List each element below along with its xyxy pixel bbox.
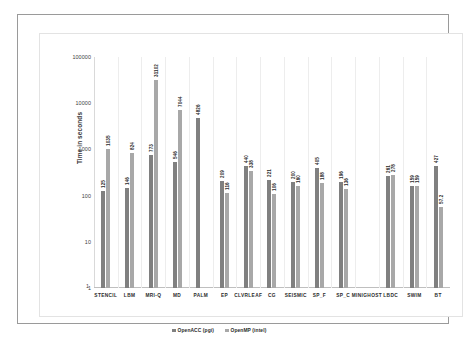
legend-swatch-icon <box>172 329 176 333</box>
bar[interactable] <box>296 186 300 288</box>
bar-slot: 146 <box>125 57 129 288</box>
bar[interactable] <box>154 80 158 288</box>
bar-value-label: 159 <box>415 175 420 183</box>
category-label: LBDC <box>383 293 398 298</box>
legend-label: OpenMP (intel) <box>231 328 267 333</box>
bar-pair <box>355 57 379 288</box>
bar[interactable] <box>225 193 229 288</box>
bar-group: 405188SP_F <box>308 57 332 288</box>
bar[interactable] <box>106 149 110 288</box>
bar[interactable] <box>125 188 129 288</box>
bar-pair: 5467044 <box>165 57 189 288</box>
category-label: STENCIL <box>94 293 117 298</box>
bar[interactable] <box>339 182 343 288</box>
bar-slot: 31102 <box>154 57 158 288</box>
category-label: MINIGHOST <box>352 293 382 298</box>
bar[interactable] <box>320 183 324 288</box>
category-label: EP <box>221 293 228 298</box>
bar-slot: 136 <box>344 57 348 288</box>
bar-slot: 773 <box>149 57 153 288</box>
bar-group: 261278LBDC <box>379 57 403 288</box>
bar[interactable] <box>415 186 419 288</box>
bar-slot: 405 <box>315 57 319 288</box>
bar-group: 209116EP <box>213 57 237 288</box>
bar-slot: 440 <box>244 57 248 288</box>
bar[interactable] <box>391 175 395 288</box>
bar[interactable] <box>173 162 177 288</box>
bar-pair: 159159 <box>403 57 427 288</box>
category-label: SP_F <box>313 293 326 298</box>
y-tick-label: 10000 <box>76 100 92 106</box>
category-label: MRI-Q <box>145 293 161 298</box>
bar-group: 200160SEISMIC <box>284 57 308 288</box>
bar-value-label: 116 <box>225 182 230 190</box>
bar-pair: 261278 <box>379 57 403 288</box>
bar-value-label: 188 <box>320 172 325 180</box>
plot-area: 110100100010000100000 1251035STENCIL1468… <box>94 57 450 288</box>
bar-slot: 116 <box>225 57 229 288</box>
bar-slot: 824 <box>130 57 134 288</box>
bar[interactable] <box>386 176 390 288</box>
bar-slot: 221 <box>267 57 271 288</box>
bar-slot <box>362 57 366 288</box>
bar[interactable] <box>434 166 438 288</box>
bar-value-label: 1035 <box>107 135 112 146</box>
bar[interactable] <box>149 155 153 288</box>
bar-slot: 106 <box>272 57 276 288</box>
legend-item[interactable]: OpenMP (intel) <box>225 328 266 333</box>
bar-pair: 200160 <box>284 57 308 288</box>
category-label: SEISMIC <box>285 293 307 298</box>
bar[interactable] <box>249 171 253 288</box>
bar-group: 146824LBM <box>118 57 142 288</box>
category-label: MD <box>173 293 181 298</box>
bar-pair: 405188 <box>308 57 332 288</box>
bar[interactable] <box>101 191 105 288</box>
bar[interactable] <box>267 180 271 288</box>
bar-pair: 209116 <box>213 57 237 288</box>
bar-group: 196136SP_C <box>331 57 355 288</box>
y-tick-label: 10 <box>85 239 91 245</box>
bar[interactable] <box>291 182 295 288</box>
bar-slot <box>367 57 371 288</box>
bar-pair: 42757.2 <box>426 57 450 288</box>
category-label: CLVRLEAF <box>234 293 262 298</box>
bar[interactable] <box>272 194 276 288</box>
bar-slot: 160 <box>296 57 300 288</box>
bar-slot: 261 <box>386 57 390 288</box>
bar-pair: 146824 <box>118 57 142 288</box>
bar-value-label: 106 <box>273 183 278 191</box>
bar-slot: 4826 <box>196 57 200 288</box>
bar-group: 159159SWIM <box>403 57 427 288</box>
bar-slot: 278 <box>391 57 395 288</box>
bar[interactable] <box>315 168 319 288</box>
bar-pair: 221106 <box>260 57 284 288</box>
x-axis-base-tick: 1 <box>86 283 89 289</box>
bar-group: 1251035STENCIL <box>94 57 118 288</box>
bar-group: 4826PALM <box>189 57 213 288</box>
bar[interactable] <box>220 181 224 288</box>
bar-pair: 196136 <box>331 57 355 288</box>
bar-slot <box>201 57 205 288</box>
bar-group: 440338CLVRLEAF <box>236 57 260 288</box>
bar-group: 221106CG <box>260 57 284 288</box>
bar-value-label: 160 <box>296 175 301 183</box>
bar-slot: 546 <box>173 57 177 288</box>
bar-group: MINIGHOST <box>355 57 379 288</box>
bar[interactable] <box>410 186 414 288</box>
chart-legend: OpenACC (pgi)OpenMP (intel) <box>172 328 266 333</box>
bar-slot: 1035 <box>106 57 110 288</box>
bar[interactable] <box>244 166 248 288</box>
y-tick-label: 100 <box>82 193 91 199</box>
category-label: SP_C <box>336 293 350 298</box>
bar[interactable] <box>178 110 182 288</box>
bar-slot: 338 <box>249 57 253 288</box>
bar-slot: 7044 <box>178 57 182 288</box>
bar[interactable] <box>439 207 443 288</box>
bar[interactable] <box>130 153 134 288</box>
bar[interactable] <box>344 189 348 288</box>
bar-group: 77331102MRI-Q <box>141 57 165 288</box>
legend-item[interactable]: OpenACC (pgi) <box>172 328 214 333</box>
bar-value-label: 338 <box>249 160 254 168</box>
bar[interactable] <box>196 118 200 288</box>
category-label: SWIM <box>407 293 421 298</box>
